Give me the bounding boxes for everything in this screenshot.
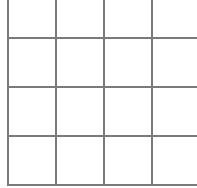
grid-cell-r1-c4[interactable] [153, 0, 197, 37]
grid-cell-r2-c1[interactable] [9, 39, 55, 86]
grid-cell-r2-c3[interactable] [105, 39, 151, 86]
grid-cell-r4-c3[interactable] [105, 137, 151, 184]
grid-cell-r1-c2[interactable] [57, 0, 103, 37]
grid-cell-r1-c3[interactable] [105, 0, 151, 37]
grid-cell-r2-c4[interactable] [153, 39, 197, 86]
grid-cell-r4-c2[interactable] [57, 137, 103, 184]
grid-cell-r4-c1[interactable] [9, 137, 55, 184]
grid-cell-r3-c2[interactable] [57, 88, 103, 135]
game-viewport [0, 0, 197, 188]
grid-cell-r3-c3[interactable] [105, 88, 151, 135]
grid-cell-r4-c4[interactable] [153, 137, 197, 184]
grid-cell-r3-c1[interactable] [9, 88, 55, 135]
grid-cell-r1-c1[interactable] [9, 0, 55, 37]
game-board-grid [7, 0, 197, 186]
grid-cell-r2-c2[interactable] [57, 39, 103, 86]
grid-cell-r3-c4[interactable] [153, 88, 197, 135]
